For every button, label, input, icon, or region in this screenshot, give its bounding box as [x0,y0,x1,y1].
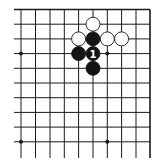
black-stone [72,47,86,61]
star-point-icon [105,140,109,144]
black-stone [86,32,100,46]
black-stone-icon [72,47,86,61]
black-stone-icon [86,61,100,75]
go-board: 1 [0,0,159,168]
white-stone-icon [72,32,86,46]
board-grid [14,10,150,159]
white-stone [100,32,114,46]
white-stone-icon [86,17,100,31]
black-stone: 1 [86,47,100,61]
move-number-label: 1 [90,49,97,60]
black-stone [86,61,100,75]
white-stone [115,32,129,46]
stones: 1 [72,17,129,75]
white-stone-icon [115,32,129,46]
black-stone-icon [86,32,100,46]
white-stone-icon [100,32,114,46]
white-stone [86,17,100,31]
white-stone [72,32,86,46]
star-point-icon [19,52,23,56]
star-point-icon [105,52,109,56]
star-point-icon [19,140,23,144]
